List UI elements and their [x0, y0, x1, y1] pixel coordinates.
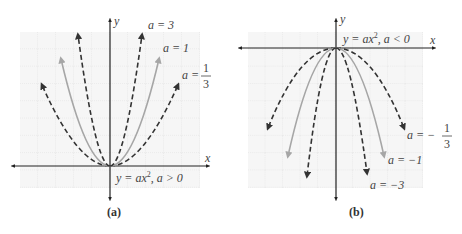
- label-b-neg-1: a = −1: [388, 153, 422, 167]
- svg-text:3: 3: [203, 77, 209, 91]
- label-a-3: a = 3: [148, 18, 174, 32]
- svg-text:3: 3: [444, 137, 450, 151]
- svg-text:1: 1: [203, 61, 209, 75]
- svg-text:a = −: a = −: [407, 128, 435, 142]
- label-b-neg-3: a = −3: [370, 178, 404, 192]
- y-axis-label-b: y: [339, 12, 346, 26]
- caption-b: (b): [349, 205, 364, 219]
- svg-text:1: 1: [444, 121, 450, 135]
- label-a-1: a = 1: [163, 41, 189, 55]
- panel-a: y x a = 3 a = 1 a = 1 3 y = ax2, a > 0 (…: [13, 14, 211, 219]
- caption-a: (a): [107, 205, 121, 219]
- x-axis-label-b: x: [429, 33, 436, 47]
- svg-text:a =: a =: [182, 68, 199, 82]
- panel-b: y x y = ax2, a < 0 a = − 1 3 a = −1 a = …: [240, 12, 452, 219]
- y-axis-label-a: y: [113, 14, 120, 28]
- x-axis-label-a: x: [204, 151, 211, 165]
- figure: y x a = 3 a = 1 a = 1 3 y = ax2, a > 0 (…: [0, 0, 462, 234]
